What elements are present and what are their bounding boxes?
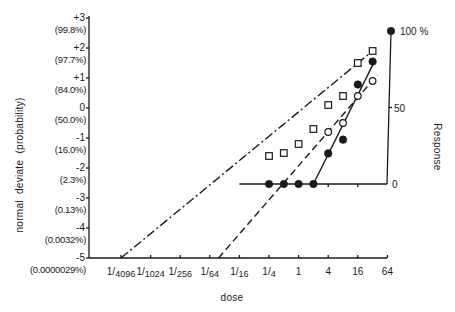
square-marker xyxy=(281,150,288,157)
y-tick-probability: (50.0%) xyxy=(55,114,86,125)
square-marker xyxy=(340,93,347,100)
data-points xyxy=(265,27,395,188)
x-tick-label: 1/64 xyxy=(201,266,219,279)
square-marker xyxy=(266,153,273,160)
filled-circle-marker xyxy=(354,81,362,89)
open-circle-marker xyxy=(355,93,362,100)
open-circle-marker xyxy=(325,129,332,136)
y-tick-probability: (2.3%) xyxy=(60,174,86,185)
fit-lines xyxy=(121,51,377,258)
y-tick-probability: (84.0%) xyxy=(55,84,86,95)
filled-circle-marker xyxy=(387,27,395,35)
y-tick-label: -4 xyxy=(76,222,85,233)
square-marker xyxy=(310,126,317,133)
y-tick-label: -2 xyxy=(76,162,85,173)
open-circle-marker xyxy=(369,78,376,85)
filled-circle-marker xyxy=(369,58,377,66)
x-tick-label: 64 xyxy=(382,266,394,277)
axes xyxy=(86,16,392,258)
y-tick-probability: (16.0%) xyxy=(55,144,86,155)
y-tick-probability: (0.0000029%) xyxy=(30,264,86,275)
y2-tick-label: 100 % xyxy=(400,26,428,37)
x-tick-label: 1/1024 xyxy=(136,266,164,279)
axis-labels: +3(99.8%)+2(97.7%)+1(84.0%)0(50.0%)-1(16… xyxy=(30,12,429,279)
fit-line-dash-dot xyxy=(121,51,373,258)
y2-tick-label: 50 xyxy=(394,103,406,114)
filled-circle-marker xyxy=(339,136,347,144)
y-tick-probability: (0.0032%) xyxy=(45,234,86,245)
x-tick-label: 1/4096 xyxy=(107,266,135,279)
filled-circle-marker xyxy=(324,150,332,158)
y-tick-label: -1 xyxy=(76,132,85,143)
y2-axis-title: Response xyxy=(432,123,443,171)
x-tick-label: 4 xyxy=(325,266,331,277)
square-marker xyxy=(355,60,362,67)
y-tick-probability: (97.7%) xyxy=(55,54,86,65)
y-tick-probability: (99.8%) xyxy=(55,24,86,35)
y-tick-label: +3 xyxy=(74,12,86,23)
filled-circle-marker xyxy=(280,180,288,188)
filled-circle-marker xyxy=(265,180,273,188)
open-circle-marker xyxy=(340,120,347,127)
x-tick-label: 16 xyxy=(352,266,364,277)
filled-circle-marker xyxy=(310,180,318,188)
x-axis-title: dose xyxy=(221,292,244,303)
square-marker xyxy=(369,48,376,55)
y-tick-label: +2 xyxy=(74,42,86,53)
dose-response-chart: +3(99.8%)+2(97.7%)+1(84.0%)0(50.0%)-1(16… xyxy=(0,0,455,312)
y-tick-label: -3 xyxy=(76,192,85,203)
square-marker xyxy=(325,102,332,109)
x-tick-label: 1/16 xyxy=(230,266,248,279)
x-tick-label: 1/256 xyxy=(169,266,192,279)
y-axis-title: normal deviate (probability) xyxy=(14,97,25,232)
y-tick-label: 0 xyxy=(79,102,85,113)
filled-circle-marker xyxy=(295,180,303,188)
y-tick-label: -5 xyxy=(76,252,85,263)
x-tick-label: 1 xyxy=(296,266,302,277)
y-tick-label: +1 xyxy=(74,72,86,83)
y-tick-probability: (0.13%) xyxy=(55,204,86,215)
x-tick-label: 1/4 xyxy=(262,266,275,279)
y2-tick-label: 0 xyxy=(392,179,398,190)
square-marker xyxy=(295,141,302,148)
